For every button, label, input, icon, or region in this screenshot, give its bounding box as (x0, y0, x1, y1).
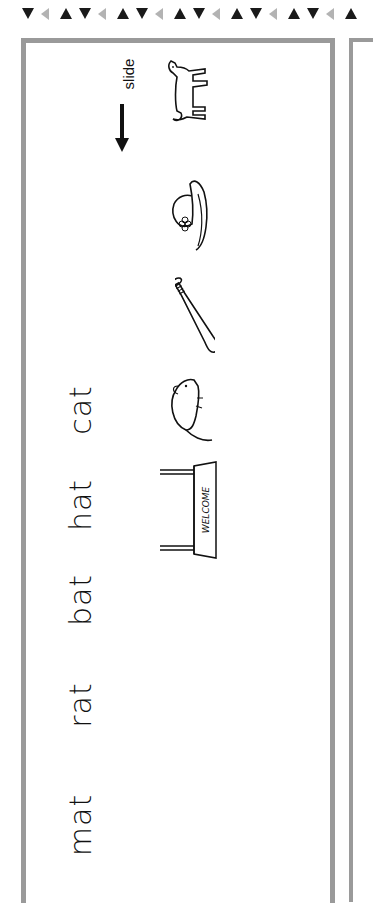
bat-picture (175, 269, 215, 361)
word-rat: rat (63, 682, 98, 727)
arrow-down-icon (115, 104, 129, 152)
triangle-down-icon (136, 8, 148, 19)
hat-picture (166, 176, 214, 254)
word-cat: cat (63, 385, 98, 435)
triangle-left-icon (326, 8, 334, 20)
decorative-triangle-border (0, 6, 353, 22)
triangle-up-icon (288, 8, 300, 19)
triangle-up-icon (60, 8, 72, 19)
triangle-down-icon (79, 8, 91, 19)
word-mat: mat (63, 794, 98, 856)
triangle-up-icon (174, 8, 186, 19)
welcome-mat-picture: WELCOME (156, 460, 220, 560)
word-hat: hat (63, 479, 98, 531)
triangle-down-icon (250, 8, 262, 19)
cat-picture (165, 57, 215, 127)
triangle-left-icon (269, 8, 277, 20)
triangle-down-icon (22, 8, 34, 19)
triangle-left-icon (155, 8, 163, 20)
triangle-up-icon (117, 8, 129, 19)
triangle-up-icon (231, 8, 243, 19)
slide-instruction: slide (108, 42, 148, 152)
triangle-up-icon (345, 8, 357, 19)
welcome-mat-text: WELCOME (201, 486, 211, 533)
word-bat: bat (63, 574, 98, 626)
triangle-left-icon (41, 8, 49, 20)
rat-picture (162, 374, 218, 446)
next-worksheet-frame-edge (349, 38, 373, 902)
slide-label: slide (120, 59, 137, 90)
triangle-left-icon (98, 8, 106, 20)
triangle-down-icon (193, 8, 205, 19)
triangle-down-icon (307, 8, 319, 19)
triangle-left-icon (212, 8, 220, 20)
